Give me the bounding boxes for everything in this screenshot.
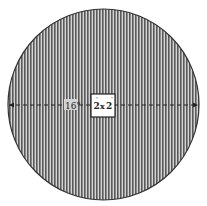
square-width-label: 2 <box>94 101 100 111</box>
square-height-unit: " <box>111 96 113 101</box>
square-times-sign: x <box>100 101 105 111</box>
square-width-unit: " <box>96 96 98 101</box>
square-height-label: 2 <box>106 101 112 111</box>
diameter-label: 16" <box>65 101 81 111</box>
diagram-canvas: 16" 2 " x 2 " <box>0 0 207 206</box>
